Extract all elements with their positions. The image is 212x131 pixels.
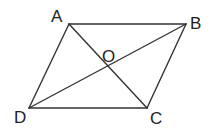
side-da bbox=[29, 24, 69, 108]
label-a: A bbox=[51, 7, 63, 26]
label-d: D bbox=[14, 108, 26, 127]
parallelogram-diagram: A B O D C bbox=[0, 0, 212, 131]
label-c: C bbox=[150, 109, 162, 128]
side-bc bbox=[147, 24, 186, 108]
diagonal-bd bbox=[29, 24, 186, 108]
label-b: B bbox=[190, 14, 201, 33]
label-o: O bbox=[102, 47, 115, 66]
